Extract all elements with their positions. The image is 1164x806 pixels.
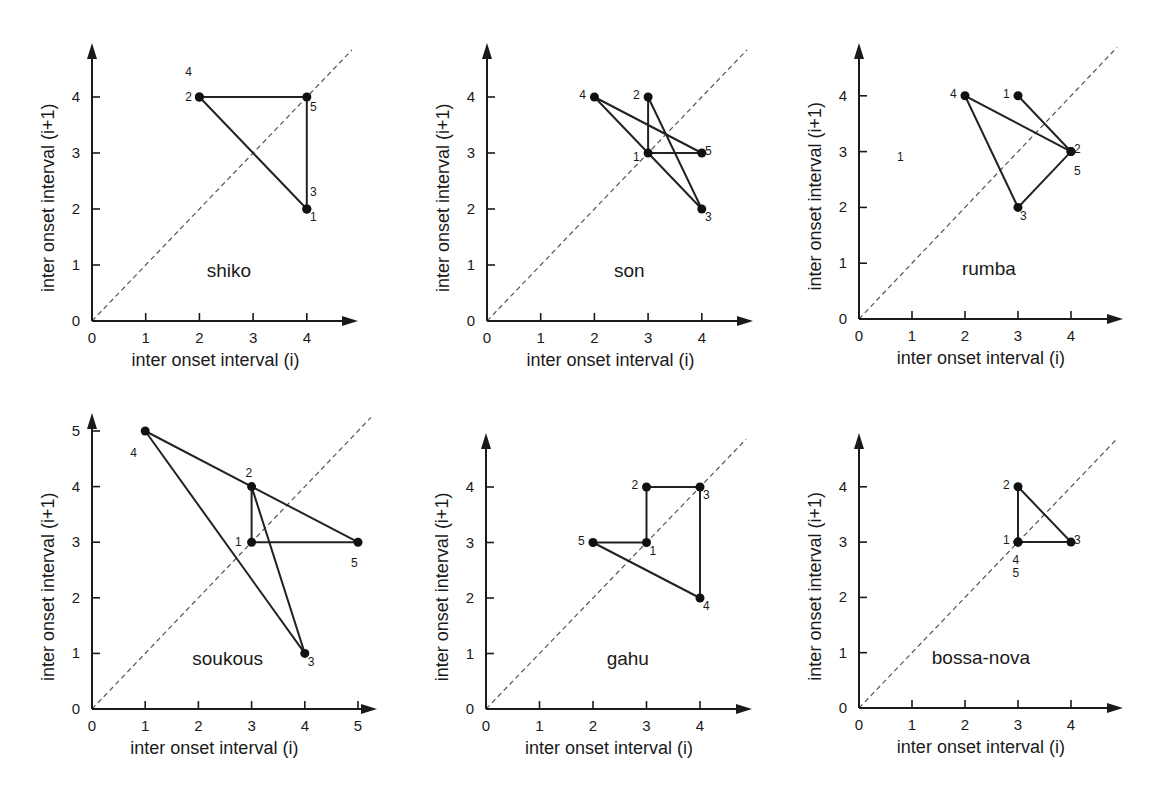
x-tick-label: 4 bbox=[1067, 716, 1075, 733]
x-axis-arrow-icon bbox=[1107, 314, 1123, 324]
y-axis-title: inter onset interval (i+1) bbox=[433, 104, 453, 293]
x-axis-title: inter onset interval (i) bbox=[897, 348, 1065, 368]
y-tick-label: 1 bbox=[839, 644, 847, 661]
x-axis-arrow-icon bbox=[736, 704, 752, 714]
x-tick-label: 3 bbox=[1014, 716, 1022, 733]
y-tick-label: 0 bbox=[72, 312, 80, 329]
x-axis-title: inter onset interval (i) bbox=[525, 738, 693, 758]
x-tick-label: 3 bbox=[642, 717, 650, 734]
y-tick-label: 0 bbox=[467, 312, 475, 329]
y-tick-label: 0 bbox=[466, 700, 474, 717]
y-axis-title: inter onset interval (i+1) bbox=[432, 493, 452, 682]
y-axis-arrow-icon bbox=[482, 43, 492, 59]
y-axis-arrow-icon bbox=[854, 433, 864, 449]
x-tick-label: 0 bbox=[855, 716, 863, 733]
data-point bbox=[644, 93, 653, 102]
x-axis-arrow-icon bbox=[361, 704, 377, 714]
panel-shiko: 0123401234inter onset interval (i)inter … bbox=[38, 43, 358, 370]
x-tick-label: 0 bbox=[482, 717, 490, 734]
y-axis-title: inter onset interval (i+1) bbox=[805, 492, 825, 681]
x-tick-label: 1 bbox=[908, 716, 916, 733]
point-label: 5 bbox=[578, 534, 585, 548]
point-label: 3 bbox=[308, 655, 315, 669]
y-tick-label: 4 bbox=[839, 87, 847, 104]
y-tick-label: 3 bbox=[72, 533, 80, 550]
data-point bbox=[1014, 482, 1023, 491]
y-tick-label: 3 bbox=[72, 144, 80, 161]
x-tick-label: 4 bbox=[696, 717, 704, 734]
y-tick-label: 2 bbox=[72, 200, 80, 217]
data-point bbox=[589, 538, 598, 547]
y-axis-arrow-icon bbox=[87, 43, 97, 59]
x-tick-label: 0 bbox=[483, 329, 491, 346]
y-axis-title: inter onset interval (i+1) bbox=[38, 492, 58, 681]
point-label: 3 bbox=[1020, 209, 1027, 223]
y-tick-label: 0 bbox=[839, 699, 847, 716]
x-tick-label: 3 bbox=[644, 329, 652, 346]
y-tick-label: 4 bbox=[467, 88, 475, 105]
y-tick-label: 2 bbox=[466, 589, 474, 606]
y-tick-label: 2 bbox=[72, 589, 80, 606]
x-tick-label: 2 bbox=[194, 717, 202, 734]
y-tick-label: 3 bbox=[467, 144, 475, 161]
data-point bbox=[590, 93, 599, 102]
point-label: 4 bbox=[130, 446, 137, 460]
x-tick-label: 5 bbox=[354, 717, 362, 734]
y-tick-label: 2 bbox=[839, 588, 847, 605]
point-label: 4 bbox=[703, 599, 710, 613]
x-axis-arrow-icon bbox=[737, 316, 753, 326]
data-point bbox=[354, 538, 363, 547]
point-label: 2 bbox=[633, 88, 640, 102]
data-point bbox=[247, 538, 256, 547]
point-label: 5 bbox=[310, 100, 317, 114]
point-label: 1 bbox=[897, 150, 904, 164]
x-axis-title: inter onset interval (i) bbox=[526, 350, 694, 370]
x-tick-label: 2 bbox=[589, 717, 597, 734]
data-point bbox=[195, 93, 204, 102]
y-tick-label: 4 bbox=[466, 478, 474, 495]
point-label: 3 bbox=[310, 185, 317, 199]
y-tick-label: 3 bbox=[466, 534, 474, 551]
y-tick-label: 1 bbox=[72, 644, 80, 661]
x-tick-label: 2 bbox=[195, 329, 203, 346]
panel-son: 0123401234inter onset interval (i)inter … bbox=[433, 43, 753, 370]
panel-soukous: 012345012345inter onset interval (i)inte… bbox=[38, 413, 377, 758]
plot-name: bossa-nova bbox=[932, 647, 1031, 668]
point-label: 4 bbox=[185, 65, 192, 79]
panel-gahu: 0123401234inter onset interval (i)inter … bbox=[432, 433, 752, 758]
data-point bbox=[642, 483, 651, 492]
plot-name: shiko bbox=[207, 260, 251, 281]
x-tick-label: 2 bbox=[590, 329, 598, 346]
y-axis-arrow-icon bbox=[87, 413, 97, 429]
point-label: 1 bbox=[650, 544, 657, 558]
panel-rumba: 0123401234inter onset interval (i)inter … bbox=[805, 43, 1123, 368]
y-tick-label: 1 bbox=[466, 645, 474, 662]
point-label: 1 bbox=[1003, 533, 1010, 547]
x-tick-label: 4 bbox=[303, 329, 311, 346]
plot-name: soukous bbox=[192, 648, 263, 669]
y-tick-label: 4 bbox=[72, 88, 80, 105]
x-tick-label: 0 bbox=[855, 327, 863, 344]
x-axis-title: inter onset interval (i) bbox=[131, 350, 299, 370]
x-tick-label: 1 bbox=[535, 717, 543, 734]
x-tick-label: 3 bbox=[249, 329, 257, 346]
point-label: 5 bbox=[1013, 566, 1020, 580]
x-axis-arrow-icon bbox=[342, 316, 358, 326]
x-tick-label: 3 bbox=[1014, 327, 1022, 344]
rhythm-interval-figure: 0123401234inter onset interval (i)inter … bbox=[0, 0, 1164, 806]
x-tick-label: 1 bbox=[537, 329, 545, 346]
x-tick-label: 0 bbox=[88, 329, 96, 346]
point-label: 5 bbox=[705, 144, 712, 158]
x-tick-label: 4 bbox=[1067, 327, 1075, 344]
y-tick-label: 1 bbox=[72, 256, 80, 273]
x-tick-label: 4 bbox=[698, 329, 706, 346]
y-tick-label: 4 bbox=[839, 478, 847, 495]
point-label: 1 bbox=[633, 150, 640, 164]
x-tick-label: 4 bbox=[301, 717, 309, 734]
y-axis-arrow-icon bbox=[481, 433, 491, 449]
x-axis-arrow-icon bbox=[1107, 703, 1123, 713]
data-point bbox=[141, 427, 150, 436]
y-tick-label: 3 bbox=[839, 143, 847, 160]
y-tick-label: 3 bbox=[839, 533, 847, 550]
interval-path bbox=[199, 97, 306, 209]
